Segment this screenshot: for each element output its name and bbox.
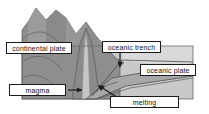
label-continental-plate: continental plate	[6, 42, 72, 54]
label-oceanic-trench: oceanic trench	[102, 41, 161, 53]
diagram-page: continental plate oceanic trench oceanic…	[0, 0, 209, 114]
label-oceanic-plate: oceanic plate	[140, 64, 196, 76]
label-melting: melting	[110, 96, 179, 108]
subduction-zone-figure: continental plate oceanic trench oceanic…	[0, 0, 209, 114]
label-magma: magma	[9, 84, 66, 96]
mountain-peak-left	[28, 8, 46, 46]
